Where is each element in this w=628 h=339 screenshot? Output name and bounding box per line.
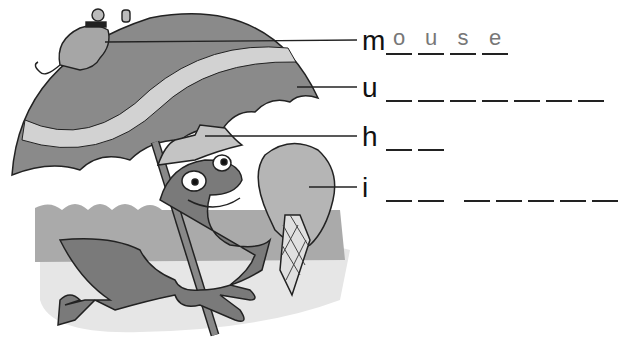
letter-blank[interactable] — [418, 121, 444, 151]
letter-blank[interactable] — [578, 72, 604, 102]
label-umbrella: u — [362, 72, 610, 102]
letter-blank[interactable] — [482, 72, 508, 102]
letter-blank[interactable]: s — [450, 25, 476, 55]
letter-blank[interactable]: o — [386, 25, 412, 55]
letter-blank[interactable]: e — [482, 25, 508, 55]
initial-letter: u — [362, 74, 386, 102]
letter-blank[interactable] — [386, 72, 412, 102]
letter-blank[interactable] — [592, 172, 618, 202]
label-mouse: m o u s e — [362, 25, 514, 55]
letter-blank[interactable] — [546, 72, 572, 102]
initial-letter: h — [362, 123, 386, 151]
letter-blank[interactable] — [560, 172, 586, 202]
letter-blank[interactable] — [496, 172, 522, 202]
initial-letter: m — [362, 27, 386, 55]
letter-blank[interactable] — [450, 72, 476, 102]
illustration — [0, 0, 628, 339]
initial-letter: i — [362, 174, 386, 202]
letter-blank[interactable] — [528, 172, 554, 202]
letter-blank[interactable] — [464, 172, 490, 202]
label-hat: h — [362, 121, 450, 151]
label-ice-cream: i — [362, 172, 624, 202]
letter-blank[interactable] — [418, 72, 444, 102]
letter-blank[interactable] — [386, 172, 412, 202]
letter-blank[interactable]: u — [418, 25, 444, 55]
letter-blank[interactable] — [418, 172, 444, 202]
letter-blank[interactable] — [514, 72, 540, 102]
letter-blank[interactable] — [386, 121, 412, 151]
